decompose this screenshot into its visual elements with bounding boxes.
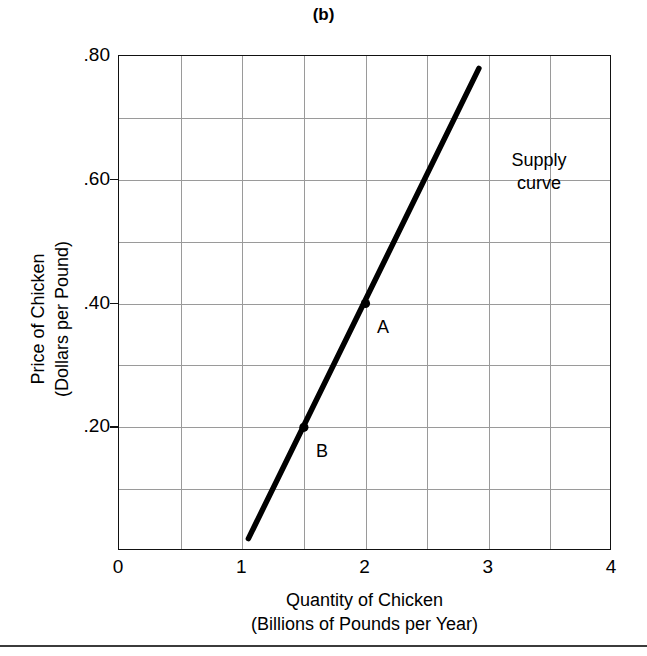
point-b-label: B	[316, 442, 328, 460]
figure-panel-b: (b) Supply curve A B .80 .60 .40	[0, 0, 647, 656]
y-tick-mark-0.40	[110, 303, 118, 305]
point-b-marker	[299, 423, 308, 432]
y-axis-title-line-1: Price of Chicken	[26, 154, 50, 484]
x-axis-title-line-1: Quantity of Chicken	[118, 588, 611, 612]
x-tick-label-2: 2	[345, 556, 385, 578]
page-title: (b)	[0, 5, 647, 25]
x-tick-label-3: 3	[468, 556, 508, 578]
y-tick-mark-0.60	[110, 179, 118, 181]
x-axis-title: Quantity of Chicken (Billions of Pounds …	[118, 588, 611, 636]
footer-divider	[0, 645, 647, 647]
x-tick-label-4: 4	[591, 556, 631, 578]
point-a-marker	[361, 299, 370, 308]
x-axis-ticks: 0 1 2 3 4	[118, 556, 611, 586]
y-tick-mark-0.20	[110, 426, 118, 428]
supply-curve-label: Supply curve	[479, 149, 599, 195]
plot-area: Supply curve A B	[118, 55, 611, 550]
y-axis-title-line-2: (Dollars per Pound)	[50, 154, 74, 484]
x-axis-title-line-2: (Billions of Pounds per Year)	[118, 612, 611, 636]
y-tick-label-0.80: .80	[50, 45, 110, 64]
supply-curve-svg	[119, 56, 612, 551]
y-axis-title: Price of Chicken (Dollars per Pound)	[26, 154, 74, 484]
point-a-label: A	[377, 318, 389, 336]
x-tick-label-0: 0	[98, 556, 138, 578]
x-tick-label-1: 1	[221, 556, 261, 578]
